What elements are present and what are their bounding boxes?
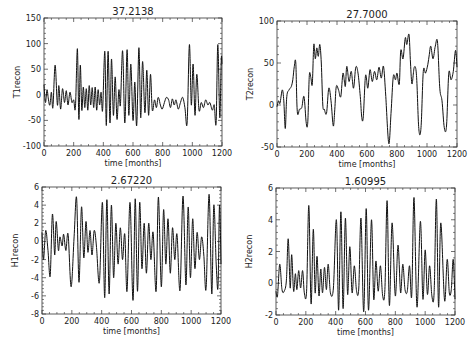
x-tick-label: 200 — [298, 318, 313, 327]
y-tick-label: -6 — [31, 292, 39, 301]
x-tick-label: 800 — [154, 317, 169, 326]
x-tick-label: 1000 — [181, 317, 201, 326]
x-tick-label: 600 — [125, 149, 140, 158]
plot-frame — [44, 18, 222, 146]
panel-h2recon: 020040060080010001200-202461.60995time [… — [245, 176, 465, 337]
y-axis-label: T2recon — [246, 68, 255, 101]
y-tick-label: -100 — [23, 142, 41, 151]
series-line — [44, 44, 222, 125]
y-tick-label: 2 — [34, 219, 39, 228]
x-tick-label: 1000 — [417, 150, 437, 159]
plot-title: 1.60995 — [345, 176, 386, 187]
x-tick-label: 0 — [273, 318, 278, 327]
y-tick-label: 50 — [31, 65, 41, 74]
x-tick-label: 1200 — [212, 149, 232, 158]
panel-t1recon: 020040060080010001200-100-5005010015037.… — [13, 6, 232, 168]
x-tick-label: 400 — [96, 149, 111, 158]
y-tick-label: 100 — [26, 40, 41, 49]
y-tick-label: 6 — [34, 183, 39, 192]
series-line — [276, 197, 455, 311]
x-tick-label: 200 — [66, 149, 81, 158]
panel-h1recon: 020040060080010001200-8-6-4-202462.67220… — [11, 175, 231, 336]
x-tick-label: 800 — [389, 150, 404, 159]
x-tick-label: 400 — [328, 318, 343, 327]
y-tick-label: 0 — [268, 279, 273, 288]
x-axis-label: time [months] — [105, 159, 162, 168]
y-axis-label: T1recon — [13, 66, 22, 99]
y-tick-label: 2 — [268, 248, 273, 257]
x-tick-label: 0 — [41, 149, 46, 158]
x-tick-label: 800 — [388, 318, 403, 327]
x-tick-label: 1200 — [445, 318, 465, 327]
plot-title: 27.7000 — [346, 9, 387, 20]
y-axis-label: H2recon — [245, 235, 254, 269]
y-tick-label: 0 — [269, 101, 274, 110]
x-axis-label: time [months] — [103, 327, 160, 336]
y-tick-label: 50 — [264, 59, 274, 68]
x-tick-label: 1000 — [182, 149, 202, 158]
series-line — [42, 194, 221, 300]
x-tick-label: 200 — [64, 317, 79, 326]
series-line — [277, 34, 457, 144]
x-tick-label: 200 — [299, 150, 314, 159]
x-tick-label: 0 — [39, 317, 44, 326]
x-tick-label: 800 — [155, 149, 170, 158]
x-tick-label: 600 — [358, 318, 373, 327]
plot-title: 2.67220 — [111, 175, 152, 186]
x-tick-label: 1000 — [415, 318, 435, 327]
y-tick-label: -2 — [31, 256, 39, 265]
y-tick-label: 100 — [259, 17, 274, 26]
y-axis-label: H1recon — [11, 234, 20, 268]
x-tick-label: 600 — [359, 150, 374, 159]
x-axis-label: time [months] — [337, 328, 394, 337]
x-tick-label: 0 — [274, 150, 279, 159]
chart-grid: 020040060080010001200-100-5005010015037.… — [0, 0, 473, 345]
y-tick-label: 4 — [268, 216, 273, 225]
y-tick-label: -4 — [31, 274, 39, 283]
x-tick-label: 400 — [94, 317, 109, 326]
x-tick-label: 1200 — [211, 317, 231, 326]
y-tick-label: 6 — [268, 184, 273, 193]
panel-t2recon: 020040060080010001200-5005010027.7000tim… — [246, 9, 467, 169]
y-tick-label: -2 — [265, 311, 273, 320]
y-tick-label: -8 — [31, 310, 39, 319]
y-tick-label: 0 — [34, 237, 39, 246]
x-tick-label: 600 — [124, 317, 139, 326]
y-tick-label: 0 — [36, 91, 41, 100]
y-tick-label: 4 — [34, 201, 39, 210]
x-tick-label: 1200 — [447, 150, 467, 159]
x-axis-label: time [months] — [339, 160, 396, 169]
x-tick-label: 400 — [329, 150, 344, 159]
plot-title: 37.2138 — [112, 6, 153, 17]
y-tick-label: -50 — [261, 143, 274, 152]
y-tick-label: -50 — [28, 116, 41, 125]
y-tick-label: 150 — [26, 14, 41, 23]
